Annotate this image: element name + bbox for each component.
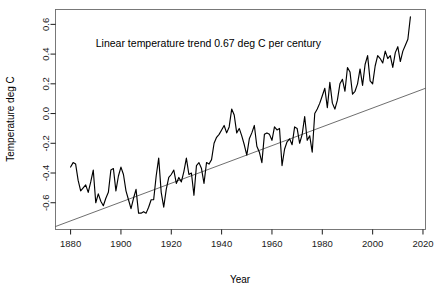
x-tick-label: 1940 <box>211 238 232 249</box>
x-tick-label: 1880 <box>60 238 81 249</box>
x-tick-label: 1960 <box>261 238 282 249</box>
x-tick-label: 1920 <box>161 238 182 249</box>
y-tick-label: 0.2 <box>40 77 51 90</box>
x-axis-title: Year <box>230 274 251 285</box>
x-axis-ticks: 18801900192019401960198020002020 <box>60 230 434 249</box>
y-tick-label: 0.6 <box>40 18 51 31</box>
y-tick-label: -0.2 <box>40 135 51 151</box>
x-tick-label: 1900 <box>110 238 131 249</box>
y-axis-title: Temperature deg C <box>5 76 16 162</box>
linear-trend-line <box>56 88 426 226</box>
y-tick-label: 0.0 <box>40 107 51 120</box>
x-tick-label: 1980 <box>312 238 333 249</box>
y-tick-label: 0.4 <box>40 47 51 60</box>
y-axis-ticks: -0.6-0.4-0.20.00.20.40.6 <box>40 18 55 211</box>
y-tick-label: -0.4 <box>40 165 51 181</box>
x-tick-label: 2020 <box>412 238 433 249</box>
trend-annotation-label: Linear temperature trend 0.67 deg C per … <box>96 37 322 49</box>
x-tick-label: 2000 <box>362 238 383 249</box>
temperature-trend-chart: -0.6-0.4-0.20.00.20.40.6 188019001920194… <box>0 0 443 293</box>
chart-canvas: -0.6-0.4-0.20.00.20.40.6 188019001920194… <box>0 0 443 293</box>
y-tick-label: -0.6 <box>40 195 51 211</box>
